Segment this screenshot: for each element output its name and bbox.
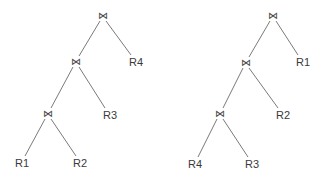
join-node-mid: ⋈: [241, 58, 251, 68]
relation-leaf: R4: [188, 159, 202, 170]
relation-leaf: R1: [15, 158, 29, 169]
relation-leaf: R3: [245, 159, 259, 170]
join-node-mid: ⋈: [71, 57, 81, 67]
join-node-top: ⋈: [268, 11, 278, 21]
relation-leaf: R3: [103, 110, 117, 121]
tree-edges: [0, 0, 321, 181]
join-node-bottom: ⋈: [43, 109, 53, 119]
relation-leaf: R1: [296, 57, 310, 68]
join-node-bottom: ⋈: [215, 109, 225, 119]
relation-leaf: R4: [129, 57, 143, 68]
relation-leaf: R2: [73, 158, 87, 169]
join-node-top: ⋈: [98, 11, 108, 21]
relation-leaf: R2: [276, 110, 290, 121]
